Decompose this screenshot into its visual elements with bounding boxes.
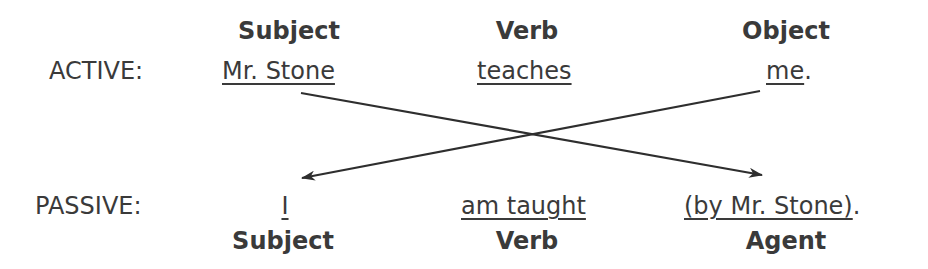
passive-label: PASSIVE:	[35, 192, 142, 220]
passive-subject-header: Subject	[232, 227, 334, 255]
passive-agent-phrase: (by Mr. Stone).	[684, 192, 860, 220]
passive-subject-word: I	[281, 192, 288, 220]
passive-verb-word: am taught	[461, 192, 586, 220]
passive-verb-header: Verb	[496, 227, 559, 255]
arrow-object-to-subject	[302, 91, 760, 178]
passive-period: .	[853, 192, 861, 220]
passive-agent-word: (by Mr. Stone)	[684, 192, 853, 220]
passive-agent-header: Agent	[746, 227, 827, 255]
